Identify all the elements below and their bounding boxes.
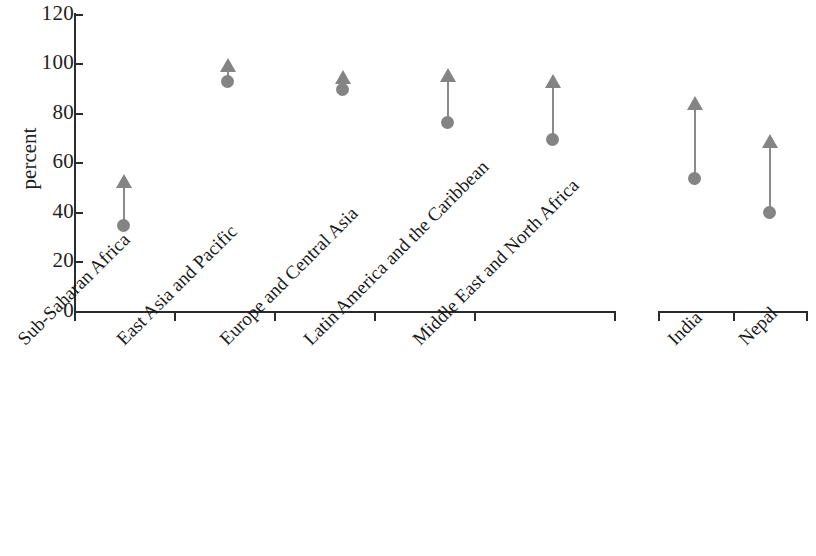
x-axis-tick [658, 311, 660, 321]
x-axis-label-india: India [664, 307, 706, 349]
x-axis-tick [806, 311, 808, 321]
x-axis-label-latin-america-and-the-caribbean: Latin America and the Caribbean [300, 157, 492, 349]
target-marker-arrow [220, 58, 236, 72]
target-marker-arrow [440, 68, 456, 82]
y-axis-title: percent [19, 104, 40, 214]
y-axis-tick [74, 212, 83, 214]
y-axis-tick [74, 63, 83, 65]
x-axis-tick [733, 311, 735, 321]
current-marker-dot [763, 206, 776, 219]
y-axis-tick [74, 113, 83, 115]
target-marker-arrow [687, 96, 703, 110]
target-marker-arrow [335, 70, 351, 84]
y-axis-tick [74, 261, 83, 263]
current-marker-dot [441, 116, 454, 129]
target-marker-arrow [762, 134, 778, 148]
y-axis-tick-label: 120 [30, 3, 74, 24]
y-axis-tick [74, 14, 83, 16]
chart-figure: 120 100 80 60 40 20 0 percent [0, 0, 816, 556]
x-axis-label-europe-and-central-asia: Europe and Central Asia [216, 203, 362, 349]
data-connector [552, 87, 554, 139]
current-marker-dot [546, 133, 559, 146]
y-axis-tick-label: 100 [30, 52, 74, 73]
y-axis-tick-label: 20 [30, 250, 74, 271]
current-marker-dot [221, 75, 234, 88]
x-axis-tick [474, 311, 476, 321]
current-marker-dot [336, 83, 349, 96]
x-axis-tick [74, 311, 76, 321]
x-axis-label-nepal: Nepal [735, 303, 781, 349]
y-axis-tick [74, 162, 83, 164]
target-marker-arrow [116, 174, 132, 188]
current-marker-dot [688, 172, 701, 185]
x-axis-tick [174, 311, 176, 321]
x-axis-tick [614, 311, 616, 321]
target-marker-arrow [545, 74, 561, 88]
x-axis-tick [274, 311, 276, 321]
x-axis-tick [374, 311, 376, 321]
